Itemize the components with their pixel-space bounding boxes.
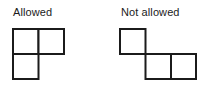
not-allowed-cell-bottom-right	[171, 54, 196, 79]
not-allowed-shape-diagram	[0, 0, 201, 87]
not-allowed-cell-top-left	[120, 29, 146, 54]
shape-comparison-figure: Allowed Not allowed	[0, 0, 201, 87]
not-allowed-cell-bottom-middle	[146, 54, 172, 79]
